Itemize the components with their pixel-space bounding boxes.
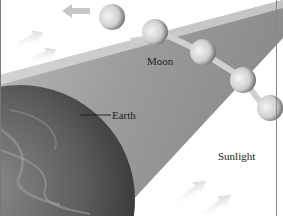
moon-icon <box>190 39 216 65</box>
moon-phases-diagram: Moon Earth Sunlight <box>0 0 283 216</box>
earth-label: Earth <box>112 110 136 121</box>
sunlight-label: Sunlight <box>218 151 255 162</box>
moon-icon <box>230 67 256 93</box>
arrow-icon <box>62 4 90 18</box>
diagram-graphic <box>0 0 283 216</box>
arrow-icon <box>175 175 210 207</box>
moon-icon <box>257 95 283 121</box>
arrow-icon <box>200 189 235 216</box>
left-border <box>0 0 1 216</box>
moon-icon <box>142 19 168 45</box>
right-border <box>276 0 277 216</box>
moon-icon <box>99 4 125 30</box>
arrow-icon <box>15 26 46 51</box>
moon-label: Moon <box>147 56 173 67</box>
